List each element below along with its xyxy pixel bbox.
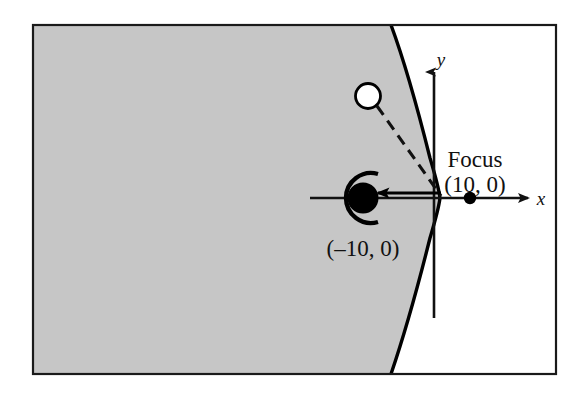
figure-canvas: y x Focus (10, 0) (–10, 0) (0, 0, 586, 398)
left-focus-label: (–10, 0) (327, 236, 400, 261)
incoming-particle-circle (356, 84, 381, 109)
focus-label-title: Focus (448, 147, 503, 172)
hyperbola-figure: y x Focus (10, 0) (–10, 0) (0, 0, 586, 398)
y-axis-label: y (435, 49, 446, 70)
x-axis-label: x (536, 188, 546, 209)
shaded-region (33, 25, 440, 374)
focus-label-coords: (10, 0) (444, 172, 505, 197)
plot-field (33, 25, 556, 374)
left-focus-dot (348, 183, 379, 214)
